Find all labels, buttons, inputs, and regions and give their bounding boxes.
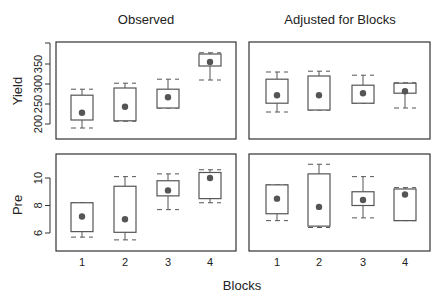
mean-point — [165, 187, 171, 193]
box-block-1 — [71, 89, 93, 128]
mean-point — [165, 94, 171, 100]
mean-point — [316, 204, 322, 210]
box-block-2 — [114, 83, 136, 121]
ylabel-yield: Yield — [10, 77, 25, 105]
mean-point — [360, 90, 366, 96]
x-tick-label: 3 — [360, 256, 366, 268]
box-block-1 — [266, 72, 288, 112]
y-tick-label: 300 — [32, 75, 44, 93]
panel-3: 68101234 — [32, 154, 236, 268]
box-block-4 — [394, 188, 416, 221]
box-block-2 — [308, 164, 330, 227]
ylabel-pre: Pre — [10, 195, 25, 215]
mean-point — [402, 88, 408, 94]
mean-point — [207, 175, 213, 181]
x-tick-label: 2 — [316, 256, 322, 268]
x-tick-label: 2 — [122, 256, 128, 268]
box-plot-figure: Observed Adjusted for Blocks Yield Pre B… — [0, 0, 443, 297]
x-tick-label: 1 — [274, 256, 280, 268]
x-tick-label: 4 — [402, 256, 408, 268]
x-tick-label: 4 — [207, 256, 213, 268]
panel-1: 200250300350 — [32, 42, 236, 139]
y-tick-label: 250 — [32, 95, 44, 113]
box-block-3 — [352, 75, 374, 103]
y-tick-label: 350 — [32, 55, 44, 73]
mean-point — [79, 110, 85, 116]
x-tick-label: 1 — [79, 256, 85, 268]
mean-point — [79, 213, 85, 219]
mean-point — [122, 216, 128, 222]
box-block-1 — [71, 203, 93, 237]
y-tick-label: 8 — [32, 202, 44, 208]
title-adjusted: Adjusted for Blocks — [284, 12, 396, 27]
box-block-4 — [199, 170, 221, 203]
panel-2 — [249, 42, 430, 139]
y-tick-label: 200 — [32, 115, 44, 133]
box-block-4 — [394, 83, 416, 108]
mean-point — [122, 104, 128, 110]
mean-point — [274, 92, 280, 98]
y-tick-label: 6 — [32, 230, 44, 236]
mean-point — [207, 59, 213, 65]
x-tick-label: 3 — [165, 256, 171, 268]
xlabel-blocks: Blocks — [223, 278, 262, 293]
box-block-2 — [308, 71, 330, 110]
mean-point — [274, 195, 280, 201]
mean-point — [360, 197, 366, 203]
box-block-3 — [157, 79, 179, 108]
mean-point — [402, 191, 408, 197]
y-tick-label: 10 — [32, 172, 44, 184]
title-observed: Observed — [118, 12, 174, 27]
box-block-4 — [199, 53, 221, 80]
box-block-3 — [352, 177, 374, 218]
panel-4: 1234 — [249, 154, 430, 268]
box-block-3 — [157, 174, 179, 210]
box-block-2 — [114, 177, 136, 240]
box-block-1 — [266, 185, 288, 221]
mean-point — [316, 92, 322, 98]
